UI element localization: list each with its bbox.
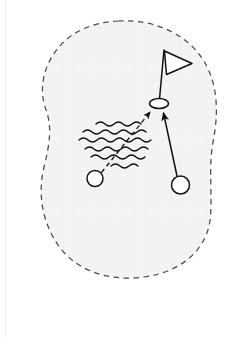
green-fill — [41, 21, 216, 278]
ball-right — [172, 176, 190, 194]
golf-hole-diagram — [0, 0, 247, 337]
hole-cup — [150, 99, 169, 109]
ball-left — [87, 171, 103, 187]
page-canvas — [0, 0, 247, 337]
green-area — [41, 21, 216, 278]
